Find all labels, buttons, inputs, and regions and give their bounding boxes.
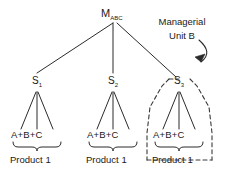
- node-s3-subscript: 3: [181, 82, 184, 88]
- connector-root-to-s1: [37, 23, 113, 73]
- caption-branch-2: Product 1: [86, 155, 127, 165]
- branch-1-fan-group: [21, 92, 53, 129]
- root-node-label: MABC: [101, 8, 123, 21]
- node-s3-main: S: [174, 75, 181, 86]
- branch-3-fan-group: [163, 92, 195, 129]
- connector-s2-to-c: [114, 92, 129, 129]
- caption-branch-3: Product 1: [152, 155, 193, 165]
- annotation-arrow-group: [195, 40, 207, 62]
- node-s3-label: S3: [174, 76, 184, 88]
- annotation-line-2: Unit B: [148, 31, 216, 41]
- leaf-label-branch-3: A+B+C: [153, 130, 185, 140]
- connector-s1-to-c: [38, 92, 53, 129]
- leaf-label-branch-2: A+B+C: [87, 130, 119, 140]
- node-s2-label: S2: [108, 76, 118, 88]
- branch-2-fan-group: [97, 92, 129, 129]
- organization-tree-diagram: MABC S1 S2 S3 A+B+C A+B+C A+B+C Product …: [0, 0, 229, 175]
- brace-branch-2: [89, 142, 137, 151]
- annotation-line-1: Managerial: [159, 16, 206, 27]
- node-s2-subscript: 2: [115, 82, 118, 88]
- node-s1-label: S1: [32, 76, 42, 88]
- brace-group: [13, 142, 203, 151]
- boundary-right-edge: [190, 79, 212, 160]
- brace-branch-1: [13, 142, 61, 151]
- node-s2-main: S: [108, 75, 115, 86]
- brace-branch-3: [155, 142, 203, 151]
- leaf-label-branch-1: A+B+C: [11, 130, 43, 140]
- managerial-unit-annotation: Managerial Unit B: [148, 17, 216, 40]
- connector-s2-to-a: [97, 92, 112, 129]
- node-s1-main: S: [32, 75, 39, 86]
- root-node-subscript: ABC: [110, 15, 122, 21]
- connector-s3-to-c: [180, 92, 195, 129]
- boundary-left-edge: [147, 79, 169, 160]
- root-node-main: M: [101, 7, 110, 19]
- node-s1-subscript: 1: [39, 82, 42, 88]
- caption-branch-1: Product 1: [10, 155, 51, 165]
- connector-s1-to-a: [21, 92, 36, 129]
- annotation-arrow-head-icon: [195, 54, 205, 62]
- connector-s3-to-a: [163, 92, 178, 129]
